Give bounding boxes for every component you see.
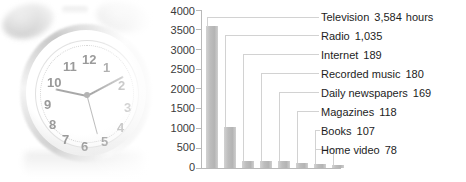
leader-h-magazines	[297, 111, 319, 112]
leader-h-internet	[243, 54, 319, 55]
leader-v-daily-newspapers	[279, 92, 280, 161]
clock-numeral-8: 8	[49, 117, 56, 132]
leader-v-books	[315, 130, 316, 164]
y-tick-4000: 4000	[155, 6, 195, 17]
label-television-value: 3,584	[374, 11, 402, 23]
clock-top-stem	[62, 6, 88, 13]
label-television-unit: hours	[406, 11, 434, 23]
y-tick-1000: 1000	[155, 123, 195, 134]
leader-h-radio	[225, 35, 319, 36]
label-internet-value: 189	[363, 49, 381, 61]
leader-v-recorded-music	[261, 73, 262, 161]
bar-television[interactable]	[206, 26, 218, 168]
plot-area	[201, 10, 341, 168]
leader-v-television	[207, 17, 208, 27]
label-recorded-music[interactable]: Recorded music180	[321, 69, 424, 80]
y-tick-500: 500	[155, 142, 195, 153]
label-television[interactable]: Television3,584hours	[321, 12, 433, 23]
label-home-video[interactable]: Home video78	[321, 145, 397, 156]
alarm-clock-photo: 12 1 2 3 4 5 6 7 8 9 10 11	[0, 0, 155, 182]
leader-h-books	[315, 130, 320, 131]
leader-h-television	[207, 17, 319, 18]
clock-numeral-4: 4	[117, 120, 124, 135]
y-tick-3000: 3000	[155, 45, 195, 56]
clock-numeral-3: 3	[124, 100, 131, 115]
label-radio-name: Radio	[321, 30, 350, 42]
bar-internet[interactable]	[242, 161, 254, 169]
y-tick-0: 0	[155, 162, 195, 173]
clock-center-hub	[84, 92, 90, 98]
label-books-name: Books	[321, 125, 352, 137]
label-home-video-value: 78	[385, 144, 397, 156]
screenshot-root: 12 1 2 3 4 5 6 7 8 9 10 11 4000 3500 300…	[0, 0, 466, 182]
clock-numeral-6: 6	[81, 139, 88, 154]
label-magazines-name: Magazines	[321, 106, 374, 118]
label-internet[interactable]: Internet189	[321, 50, 382, 61]
leader-v-radio	[225, 35, 226, 127]
label-television-name: Television	[321, 11, 369, 23]
clock-numeral-2: 2	[118, 78, 125, 93]
y-tick-2500: 2500	[155, 64, 195, 75]
label-magazines[interactable]: Magazines118	[321, 107, 397, 118]
label-daily-newspapers-value: 169	[413, 87, 431, 99]
leader-v-internet	[243, 54, 244, 161]
leader-v-magazines	[297, 111, 298, 163]
label-radio-value: 1,035	[355, 30, 383, 42]
label-magazines-value: 118	[379, 106, 397, 118]
x-axis-line	[201, 168, 341, 169]
clock-numeral-9: 9	[44, 97, 51, 112]
label-daily-newspapers[interactable]: Daily newspapers169	[321, 88, 431, 99]
clock-numeral-11: 11	[63, 59, 77, 74]
label-internet-name: Internet	[321, 49, 358, 61]
label-books[interactable]: Books107	[321, 126, 375, 137]
label-books-value: 107	[357, 125, 375, 137]
bar-recorded-music[interactable]	[260, 161, 272, 168]
label-recorded-music-value: 180	[405, 68, 423, 80]
bar-magazines[interactable]	[296, 163, 308, 168]
label-recorded-music-name: Recorded music	[321, 68, 400, 80]
clock-numeral-1: 1	[103, 60, 110, 75]
y-tick-2000: 2000	[155, 84, 195, 95]
y-tick-1500: 1500	[155, 103, 195, 114]
clock-numeral-10: 10	[47, 75, 61, 90]
clock-numeral-7: 7	[62, 132, 69, 147]
bar-radio[interactable]	[224, 127, 236, 168]
label-radio[interactable]: Radio1,035	[321, 31, 382, 42]
leader-h-daily-newspapers	[279, 92, 319, 93]
media-usage-bar-chart: 4000 3500 3000 2500 2000 1500 1000 500 0	[155, 0, 466, 182]
label-home-video-name: Home video	[321, 144, 380, 156]
clock-numeral-5: 5	[101, 134, 108, 149]
clock-numeral-12: 12	[82, 52, 96, 67]
bar-daily-newspapers[interactable]	[278, 161, 290, 168]
y-axis-tick-labels: 4000 3500 3000 2500 2000 1500 1000 500 0	[155, 0, 195, 182]
label-daily-newspapers-name: Daily newspapers	[321, 87, 408, 99]
category-label-list: Television3,584hours Radio1,035 Internet…	[321, 0, 466, 182]
leader-h-recorded-music	[261, 73, 319, 74]
y-tick-3500: 3500	[155, 25, 195, 36]
